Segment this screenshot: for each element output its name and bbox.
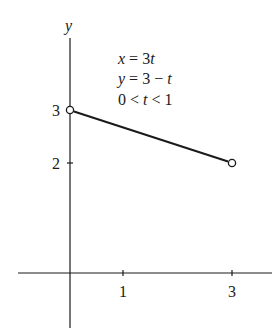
open-endpoint-start bbox=[66, 106, 73, 113]
parameter-range: 0 < t < 1 bbox=[118, 91, 173, 108]
equation-y: y = 3 − t bbox=[116, 70, 172, 88]
equation-x: x = 3t bbox=[117, 50, 155, 67]
open-endpoint-end bbox=[228, 159, 235, 166]
x-tick-label-1: 1 bbox=[119, 283, 127, 300]
y-tick-label-3: 3 bbox=[52, 102, 60, 119]
curve-segment bbox=[74, 112, 228, 162]
y-tick-label-2: 2 bbox=[52, 155, 60, 172]
x-tick-label-3: 3 bbox=[228, 283, 236, 300]
parametric-plot: y 3 2 1 3 x = 3t y = 3 − t 0 < t < 1 bbox=[0, 0, 272, 335]
y-axis-label: y bbox=[63, 17, 73, 35]
